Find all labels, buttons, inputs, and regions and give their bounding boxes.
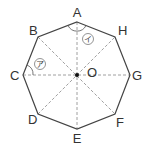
vertex-label-B: B [29, 23, 38, 38]
vertex-label-A: A [73, 5, 82, 20]
octagon-figure: ア イ A H G F E D C B O [0, 0, 149, 152]
center-point [75, 73, 79, 77]
angle-arc-C [27, 65, 33, 75]
vertex-label-E: E [73, 131, 82, 146]
vertex-label-G: G [132, 68, 142, 83]
vertex-label-F: F [116, 115, 124, 130]
svg-text:ア: ア [36, 60, 44, 69]
vertex-label-D: D [28, 112, 37, 127]
center-label-O: O [87, 65, 97, 80]
svg-text:イ: イ [84, 35, 92, 44]
angle-mark-a: ア [35, 59, 46, 70]
vertex-label-H: H [118, 23, 127, 38]
octagon-diagram: ア イ A H G F E D C B O [0, 0, 149, 152]
vertex-label-C: C [10, 68, 19, 83]
angle-mark-i: イ [83, 34, 94, 45]
